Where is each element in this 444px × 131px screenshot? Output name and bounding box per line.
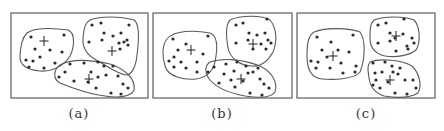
panel-c — [297, 13, 435, 98]
data-point — [328, 66, 331, 69]
data-point — [263, 31, 266, 34]
data-point — [269, 41, 272, 44]
cluster-3 — [368, 60, 420, 97]
data-point — [42, 66, 45, 69]
data-point — [172, 55, 175, 58]
data-point — [378, 86, 381, 89]
data-point — [314, 66, 317, 69]
data-point — [179, 60, 182, 63]
data-point — [260, 93, 263, 96]
data-point — [62, 33, 65, 36]
data-point — [126, 86, 129, 89]
data-point — [376, 23, 379, 26]
panel-frame — [11, 13, 148, 98]
centroid-plus-icon — [40, 36, 49, 46]
data-point — [206, 34, 209, 37]
data-point — [320, 48, 323, 51]
data-point — [414, 86, 417, 89]
data-point — [388, 39, 391, 42]
data-point — [126, 43, 129, 46]
data-point — [267, 86, 270, 89]
panel-label-c: (c) — [346, 106, 386, 121]
data-point — [82, 61, 85, 64]
data-point — [195, 60, 198, 63]
data-point — [347, 50, 350, 53]
data-point — [60, 50, 63, 53]
data-point — [167, 59, 170, 62]
data-point — [184, 42, 187, 45]
data-point — [401, 32, 404, 35]
data-point — [171, 37, 174, 40]
data-point — [201, 52, 204, 55]
data-point — [116, 74, 119, 77]
data-point — [234, 23, 237, 26]
data-point — [118, 47, 121, 50]
data-point — [195, 70, 198, 73]
centroid-plus-icon — [386, 75, 395, 85]
data-point — [351, 33, 354, 36]
centroid-plus-icon — [392, 31, 401, 41]
data-point — [266, 38, 269, 41]
data-point — [119, 31, 122, 34]
data-point — [388, 31, 391, 34]
data-point — [251, 70, 254, 73]
data-point — [390, 64, 393, 67]
data-point — [380, 70, 383, 73]
data-point — [94, 86, 97, 89]
data-point — [339, 61, 342, 64]
data-point — [316, 60, 319, 63]
data-point — [241, 21, 244, 24]
data-point — [325, 55, 328, 58]
data-point — [119, 92, 122, 95]
data-point — [393, 91, 396, 94]
data-point — [384, 21, 387, 24]
cluster-2 — [226, 16, 275, 66]
data-point — [29, 35, 32, 38]
data-point — [373, 71, 376, 74]
data-point — [57, 75, 60, 78]
data-point — [386, 80, 389, 83]
data-point — [68, 62, 71, 65]
data-point — [100, 38, 103, 41]
kmeans-clustering-figure: (a) (b) (c) — [0, 0, 444, 131]
data-point — [329, 40, 332, 43]
data-point — [376, 41, 379, 44]
data-point — [405, 44, 408, 47]
data-point — [371, 83, 374, 86]
data-point — [90, 23, 93, 26]
cluster-2 — [83, 17, 139, 75]
data-point — [176, 48, 179, 51]
centroid-plus-icon — [237, 74, 246, 84]
data-point — [121, 82, 124, 85]
data-point — [403, 78, 406, 81]
data-point — [315, 35, 318, 38]
data-point — [398, 66, 401, 69]
data-point — [27, 65, 30, 68]
data-point — [256, 66, 259, 69]
data-point — [405, 92, 408, 95]
data-point — [412, 41, 415, 44]
data-point — [354, 64, 357, 67]
data-point — [24, 58, 27, 61]
data-point — [246, 71, 249, 74]
data-point — [72, 79, 75, 82]
cluster-2 — [370, 17, 419, 57]
data-point — [122, 40, 125, 43]
data-point — [374, 78, 377, 81]
data-point — [96, 75, 99, 78]
cluster-boundary — [55, 60, 135, 97]
panel-b — [153, 13, 292, 98]
cluster-3 — [55, 60, 135, 97]
data-point — [104, 73, 107, 76]
data-point — [232, 69, 235, 72]
panel-a — [11, 13, 148, 98]
data-point — [391, 70, 394, 73]
data-point — [264, 47, 267, 50]
data-point — [127, 23, 130, 26]
data-point — [87, 40, 90, 43]
data-point — [102, 64, 105, 67]
data-point — [402, 17, 405, 20]
data-point — [394, 49, 397, 52]
data-point — [125, 38, 128, 41]
centroid-plus-icon — [108, 46, 117, 56]
